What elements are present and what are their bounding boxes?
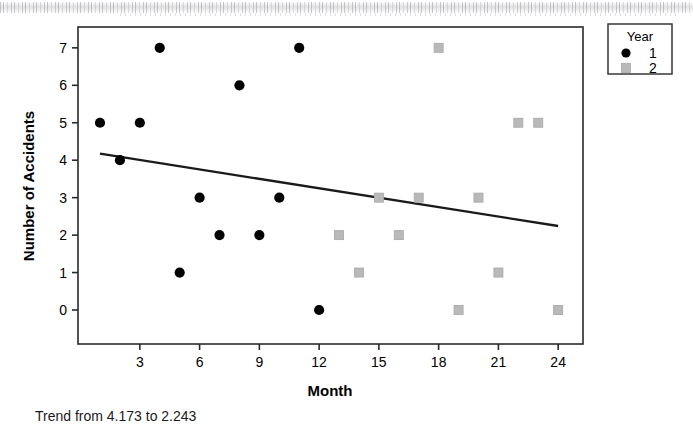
data-point-circle xyxy=(175,267,185,277)
legend-marker-circle-icon xyxy=(621,48,630,57)
y-tick-label: 5 xyxy=(59,115,67,131)
x-tick-label: 24 xyxy=(550,354,566,370)
plot-frame xyxy=(78,27,583,344)
data-point-square xyxy=(534,118,543,127)
y-axis-title: Number of Accidents xyxy=(20,111,37,261)
y-tick-label: 2 xyxy=(59,227,67,243)
data-point-square xyxy=(414,193,423,202)
legend-item-label-1: 1 xyxy=(649,45,657,61)
y-tick-label: 1 xyxy=(59,265,67,281)
y-tick-label: 7 xyxy=(59,40,67,56)
data-point-circle xyxy=(115,155,125,165)
data-point-square xyxy=(514,118,523,127)
data-point-circle xyxy=(314,305,324,315)
data-point-square xyxy=(434,43,443,52)
data-point-circle xyxy=(95,118,105,128)
x-tick-label: 6 xyxy=(196,354,204,370)
y-tick-label: 6 xyxy=(59,77,67,93)
x-tick-label: 12 xyxy=(311,354,327,370)
legend: Year 1 2 xyxy=(608,24,672,76)
data-point-square xyxy=(494,268,503,277)
data-point-circle xyxy=(135,118,145,128)
x-axis-ticks: 3691215182124 xyxy=(136,344,566,370)
x-tick-label: 15 xyxy=(371,354,387,370)
data-point-circle xyxy=(294,43,304,53)
data-point-circle xyxy=(234,80,244,90)
x-tick-label: 9 xyxy=(255,354,263,370)
data-point-square xyxy=(454,306,463,315)
data-point-square xyxy=(335,231,344,240)
y-tick-label: 0 xyxy=(59,302,67,318)
legend-item-label-2: 2 xyxy=(649,60,657,76)
legend-title: Year xyxy=(627,29,654,44)
data-point-circle xyxy=(274,193,284,203)
x-tick-label: 18 xyxy=(431,354,447,370)
data-point-square xyxy=(354,268,363,277)
data-point-square xyxy=(474,193,483,202)
y-axis-ticks: 01234567 xyxy=(59,40,78,318)
data-point-circle xyxy=(214,230,224,240)
x-tick-label: 3 xyxy=(136,354,144,370)
data-point-square xyxy=(394,231,403,240)
data-point-circle xyxy=(195,193,205,203)
data-point-square xyxy=(554,306,563,315)
x-axis-title: Month xyxy=(308,382,353,399)
x-tick-label: 21 xyxy=(491,354,507,370)
data-point-square xyxy=(374,193,383,202)
trend-caption: Trend from 4.173 to 2.243 xyxy=(35,408,196,424)
data-point-circle xyxy=(155,43,165,53)
legend-marker-square-icon xyxy=(622,64,631,73)
data-point-circle xyxy=(254,230,264,240)
scatter-plot-figure: 01234567 3691215182124 Number of Acciden… xyxy=(0,0,693,440)
chart-canvas: 01234567 3691215182124 Number of Acciden… xyxy=(0,0,693,440)
y-tick-label: 4 xyxy=(59,152,67,168)
y-tick-label: 3 xyxy=(59,190,67,206)
